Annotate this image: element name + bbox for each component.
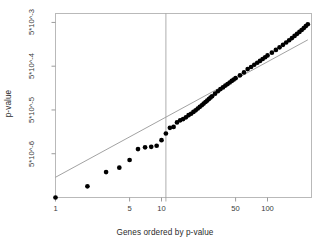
- reference-line: [56, 40, 308, 177]
- qq-plot-figure: 151050100 5*10^-35*10^-45*10^-55*10^-6 G…: [0, 0, 330, 249]
- plot-frame: [56, 14, 312, 198]
- x-tick-label-1: 1: [36, 204, 76, 213]
- x-tick-label-10: 10: [142, 204, 182, 213]
- x-axis-title: Genes ordered by p-value: [0, 228, 330, 237]
- x-tick-label-100: 100: [248, 204, 288, 213]
- y-axis-ticks: [52, 22, 56, 153]
- data-points: [53, 22, 310, 200]
- y-tick-label-1: 5*10^-4: [27, 41, 37, 91]
- y-tick-label-2: 5*10^-5: [27, 85, 37, 135]
- y-tick-label-3: 5*10^-6: [27, 129, 37, 179]
- x-axis-ticks: [56, 198, 268, 202]
- y-axis-title: p-value: [4, 74, 13, 134]
